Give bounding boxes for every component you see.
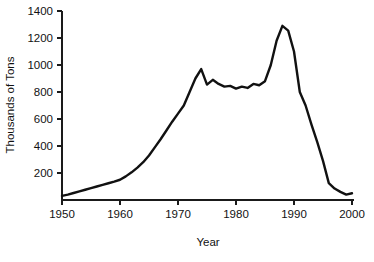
x-axis-title: Year [196,236,219,248]
y-tick-label: 600 [34,113,53,125]
y-axis-ticks [57,11,62,173]
x-tick-label: 1990 [281,208,307,220]
y-tick-label: 1000 [27,59,53,71]
x-tick-label: 1980 [223,208,249,220]
y-tick-label: 800 [34,86,53,98]
x-tick-label: 1960 [107,208,133,220]
y-axis-title: Thousands of Tons [4,56,16,153]
y-axis-tick-labels: 200400600800100012001400 [27,5,53,179]
x-tick-label: 1950 [49,208,75,220]
x-axis-ticks [62,200,352,205]
x-axis-tick-labels: 195019601970198019902000 [49,208,365,220]
chart-figure: 200400600800100012001400 195019601970198… [0,0,374,262]
y-tick-label: 1400 [27,5,53,17]
line-chart: 200400600800100012001400 195019601970198… [0,0,374,262]
x-tick-label: 2000 [339,208,365,220]
y-tick-label: 200 [34,167,53,179]
y-tick-label: 1200 [27,32,53,44]
data-series-line [62,26,352,196]
x-tick-label: 1970 [165,208,191,220]
y-tick-label: 400 [34,140,53,152]
